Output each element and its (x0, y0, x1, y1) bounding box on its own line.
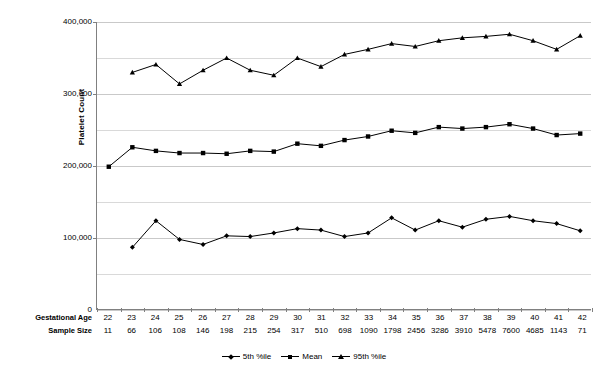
data-point (554, 133, 558, 137)
x-axis-block: Gestational Age 222324252627282930313233… (26, 312, 594, 340)
data-point (413, 131, 417, 135)
sample-size-value: 71 (570, 325, 594, 336)
data-point (389, 129, 393, 133)
data-point (578, 33, 583, 38)
data-point (342, 138, 346, 142)
platelet-count-chart: Platelet Count 0100,000200,000300,000400… (0, 0, 608, 377)
gestational-age-value: 40 (523, 312, 547, 323)
sample-size-value: 698 (333, 325, 357, 336)
y-axis-tick-label: 300,000 (32, 90, 92, 98)
data-point (224, 55, 229, 60)
data-point (460, 126, 464, 130)
sample-size-value: 198 (215, 325, 239, 336)
sample-size-value: 108 (167, 325, 191, 336)
data-point (578, 228, 583, 233)
gestational-age-value: 22 (96, 312, 120, 323)
sample-size-value: 4685 (523, 325, 547, 336)
data-point (153, 62, 158, 67)
legend-item[interactable]: Mean (281, 352, 322, 361)
gestational-age-cells: 2223242526272829303132333435363738394041… (96, 312, 594, 323)
data-point (319, 144, 323, 148)
sample-size-value: 146 (191, 325, 215, 336)
data-point (437, 125, 441, 129)
gridline (97, 310, 591, 311)
plot-area (96, 22, 591, 310)
data-point (201, 151, 205, 155)
gestational-age-value: 34 (381, 312, 405, 323)
sample-size-value: 7600 (499, 325, 523, 336)
series-mean (107, 122, 583, 169)
sample-size-value: 11 (96, 325, 120, 336)
data-point (507, 214, 512, 219)
data-point (201, 242, 206, 247)
sample-size-value: 66 (120, 325, 144, 336)
data-point (295, 55, 300, 60)
sample-size-value: 3286 (428, 325, 452, 336)
sample-size-value: 254 (262, 325, 286, 336)
data-point (107, 165, 111, 169)
gestational-age-value: 36 (428, 312, 452, 323)
gestational-age-value: 32 (333, 312, 357, 323)
data-point (130, 145, 134, 149)
gestational-age-value: 31 (309, 312, 333, 323)
y-axis-tick-label: 400,000 (32, 18, 92, 26)
data-point (248, 149, 252, 153)
sample-size-value: 215 (238, 325, 262, 336)
data-point (413, 228, 418, 233)
sample-size-row: Sample Size 1166106108146198215254317510… (26, 325, 594, 336)
sample-size-value: 510 (309, 325, 333, 336)
data-point (366, 134, 370, 138)
gestational-age-value: 33 (357, 312, 381, 323)
gestational-age-value: 24 (143, 312, 167, 323)
legend-item[interactable]: 5th %ile (222, 352, 271, 361)
y-axis-tick-label: 200,000 (32, 162, 92, 170)
gestational-age-value: 25 (167, 312, 191, 323)
legend-item[interactable]: 95th %ile (332, 352, 386, 361)
sample-size-value: 317 (286, 325, 310, 336)
gestational-age-row-label: Gestational Age (26, 312, 96, 323)
data-point (578, 131, 582, 135)
sample-size-value: 1090 (357, 325, 381, 336)
data-point (366, 230, 371, 235)
data-point (483, 217, 488, 222)
data-point (342, 234, 347, 239)
sample-size-cells: 1166106108146198215254317510698109017982… (96, 325, 594, 336)
data-point (248, 68, 253, 73)
sample-size-value: 5478 (476, 325, 500, 336)
gestational-age-value: 27 (215, 312, 239, 323)
data-point (507, 122, 511, 126)
data-point (295, 141, 299, 145)
legend-marker-icon (281, 353, 299, 360)
y-axis-tick-label: 100,000 (32, 234, 92, 242)
gestational-age-value: 23 (120, 312, 144, 323)
data-point (224, 152, 228, 156)
data-point (248, 234, 253, 239)
gestational-age-value: 26 (191, 312, 215, 323)
data-point (554, 221, 559, 226)
data-point (484, 125, 488, 129)
gestational-age-value: 38 (476, 312, 500, 323)
legend-inner: 5th %ileMean95th %ile (218, 350, 390, 363)
data-point (154, 149, 158, 153)
gestational-age-value: 39 (499, 312, 523, 323)
gestational-age-row: Gestational Age 222324252627282930313233… (26, 312, 594, 323)
sample-size-value: 2456 (404, 325, 428, 336)
data-point (272, 149, 276, 153)
sample-size-value: 1798 (381, 325, 405, 336)
gestational-age-value: 30 (286, 312, 310, 323)
legend: 5th %ileMean95th %ile (0, 350, 608, 363)
data-point (200, 68, 205, 73)
gestational-age-value: 41 (547, 312, 571, 323)
data-point (224, 233, 229, 238)
legend-marker-icon (332, 353, 350, 360)
series-5th-ile (130, 214, 583, 250)
data-point (177, 151, 181, 155)
data-point (295, 226, 300, 231)
data-point (460, 225, 465, 230)
y-axis-tick-labels: 0100,000200,000300,000400,000 (30, 22, 92, 310)
gestational-age-value: 35 (404, 312, 428, 323)
data-point (389, 215, 394, 220)
sample-size-value: 106 (143, 325, 167, 336)
series-95th-ile (130, 32, 583, 86)
gestational-age-value: 29 (262, 312, 286, 323)
